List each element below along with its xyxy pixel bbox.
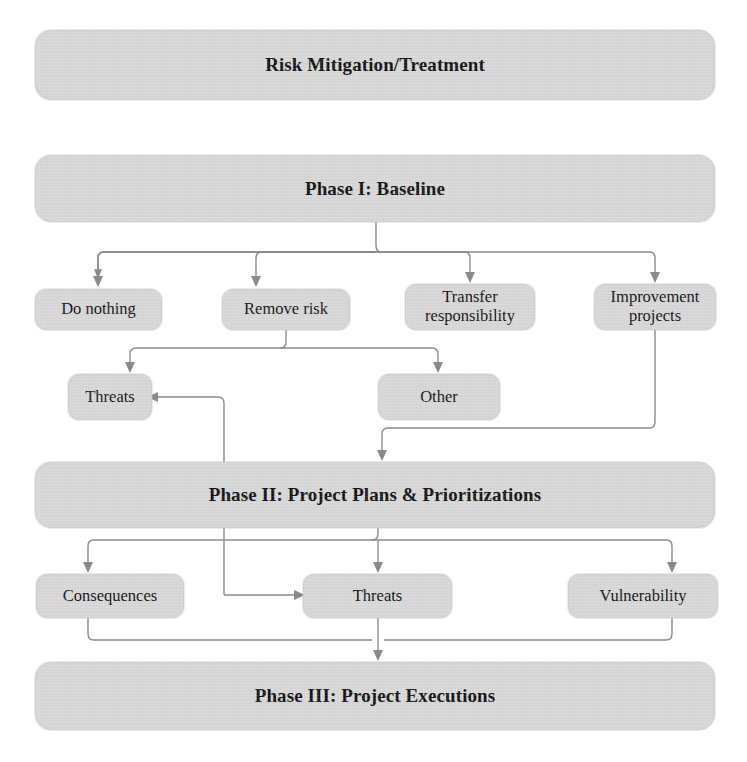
edge-remove-risk-trunk — [280, 330, 286, 348]
arrowhead-other — [433, 362, 443, 373]
edge-phase1-bus-left — [98, 252, 376, 278]
node-consequences: Consequences — [36, 574, 184, 618]
node-phase-3: Phase III: Project Executions — [35, 662, 715, 730]
node-threats-lower: Threats — [303, 574, 452, 618]
edge-phase1-trunk — [376, 222, 382, 252]
node-remove-risk-label: Remove risk — [238, 300, 334, 319]
node-phase-1-label: Phase I: Baseline — [299, 178, 451, 200]
node-remove-risk: Remove risk — [222, 289, 350, 330]
edge-phase1-to-improvement — [376, 252, 655, 278]
edge-remove-risk-to-threats — [130, 348, 286, 368]
edge-phase1-to-remove-risk — [256, 252, 376, 282]
flowchart-diagram: Risk Mitigation/Treatment Phase I: Basel… — [0, 0, 747, 762]
node-phase-3-label: Phase III: Project Executions — [249, 685, 502, 707]
node-do-nothing: Do nothing — [35, 289, 162, 330]
node-improvement-projects-label: Improvement projects — [605, 288, 706, 326]
node-title-bar: Risk Mitigation/Treatment — [35, 30, 715, 100]
node-transfer-responsibility: Transfer responsibility — [405, 284, 535, 330]
edge-phase2-to-vulnerability — [378, 540, 672, 568]
edge-consequences-to-merge — [88, 618, 372, 640]
node-other-label: Other — [414, 388, 464, 407]
node-improvement-projects: Improvement projects — [594, 284, 716, 330]
node-threats-upper-label: Threats — [79, 388, 140, 407]
node-vulnerability: Vulnerability — [568, 574, 718, 618]
arrowhead-consequences — [83, 562, 93, 573]
edge-phase1-to-do-nothing — [98, 252, 376, 282]
arrowhead-remove-risk — [251, 276, 261, 287]
arrowhead-improvement — [650, 272, 660, 283]
arrowhead-threats-upper-from-remove — [125, 362, 135, 373]
node-transfer-responsibility-label: Transfer responsibility — [419, 288, 521, 326]
arrowhead-transfer — [465, 272, 475, 283]
edge-phase2-trunk — [372, 528, 378, 540]
node-threats-lower-label: Threats — [347, 587, 408, 606]
edge-remove-risk-to-other — [286, 348, 438, 368]
node-do-nothing-label: Do nothing — [55, 300, 142, 319]
arrowhead-do-nothing — [93, 276, 103, 287]
arrowhead-vulnerability — [667, 562, 677, 573]
node-phase-2-label: Phase II: Project Plans & Prioritization… — [203, 484, 548, 506]
node-vulnerability-label: Vulnerability — [594, 587, 693, 606]
node-threats-upper: Threats — [68, 374, 152, 420]
arrowhead-threats-lower-top — [373, 562, 383, 573]
node-other: Other — [378, 374, 500, 420]
node-consequences-label: Consequences — [57, 587, 163, 606]
edge-phase2-to-consequences — [88, 540, 378, 568]
node-phase-2: Phase II: Project Plans & Prioritization… — [35, 462, 715, 528]
edge-vulnerability-to-merge — [384, 618, 672, 640]
edge-phase1-to-transfer — [376, 252, 470, 278]
node-phase-1: Phase I: Baseline — [35, 155, 715, 222]
arrowhead-phase2-from-improvement — [377, 450, 387, 461]
node-title-bar-label: Risk Mitigation/Treatment — [259, 54, 491, 76]
arrowhead-phase3 — [373, 650, 383, 661]
